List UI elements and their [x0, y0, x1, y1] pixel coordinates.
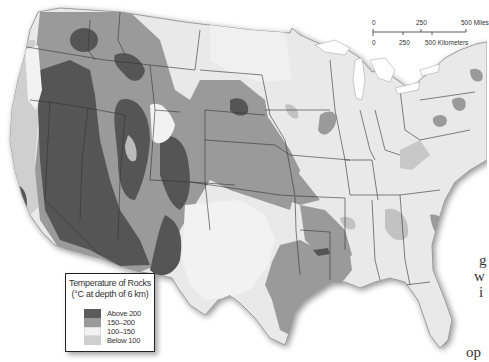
legend-label: 100–150 — [107, 327, 135, 336]
scale-bar: 0 250 500 Miles 0 250 500 Kilometers — [370, 19, 487, 53]
legend-item-below-100: Below 100 — [84, 336, 140, 345]
scale-km-500: 500 Kilometers — [425, 39, 468, 46]
stray-text-g: g — [479, 252, 487, 269]
scale-km-250: 250 — [399, 39, 410, 46]
scale-miles-500: 500 Miles — [461, 19, 489, 26]
map-legend: Temperature of Rocks (°C at depth of 6 k… — [65, 273, 155, 352]
legend-item-above-200: Above 200 — [84, 309, 141, 318]
stray-text-w: w — [474, 268, 485, 285]
scale-miles-250: 250 — [416, 19, 427, 26]
swatch-150-200 — [84, 318, 101, 327]
legend-title: Temperature of Rocks (°C at depth of 6 k… — [66, 278, 154, 299]
legend-label: Below 100 — [107, 336, 140, 345]
swatch-above-200 — [84, 309, 101, 318]
scale-miles-0: 0 — [372, 19, 376, 26]
legend-label: Above 200 — [107, 309, 141, 318]
swatch-below-100 — [84, 336, 101, 345]
legend-title-line1: Temperature of Rocks — [66, 278, 154, 289]
legend-item-100-150: 100–150 — [84, 327, 135, 336]
legend-title-line2: (°C at depth of 6 km) — [66, 289, 154, 300]
stray-text-op: op — [466, 344, 481, 361]
legend-label: 150–200 — [107, 318, 135, 327]
swatch-100-150 — [84, 327, 101, 336]
scale-km-0: 0 — [372, 39, 376, 46]
stray-text-i: i — [479, 284, 483, 301]
legend-item-150-200: 150–200 — [84, 318, 135, 327]
